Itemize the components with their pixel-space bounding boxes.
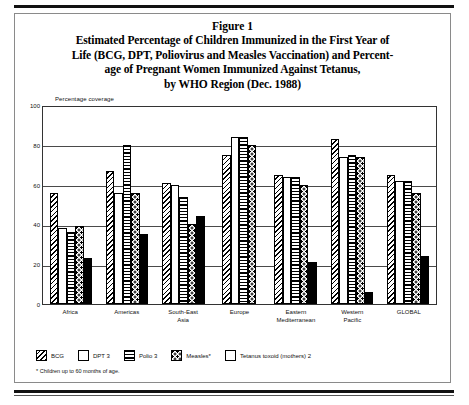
y-axis-tick-label: 40 (18, 222, 40, 228)
chart-legend: BCGDPT 3Polio 3Measles*Tetanus toxoid (m… (36, 350, 325, 361)
figure-caption: Figure 1 Estimated Percentage of Childre… (15, 14, 450, 91)
bar (421, 256, 430, 304)
legend-item: BCG (36, 350, 64, 361)
bar (162, 183, 171, 304)
bar-group (268, 107, 324, 304)
legend-swatch-icon (78, 350, 89, 361)
bar (387, 175, 396, 304)
x-axis-label: Eastern Mediterranean (268, 308, 324, 324)
bottom-decorative-rule (14, 390, 454, 393)
legend-item: Measles* (171, 350, 211, 361)
legend-swatch-icon (225, 350, 236, 361)
bar (67, 232, 76, 304)
legend-label: Polio 3 (139, 353, 157, 359)
x-axis-labels: AfricaAmericasSouth-East AsiaEuropeEaste… (42, 308, 437, 324)
top-decorative-rule (14, 5, 454, 8)
bar (339, 157, 348, 304)
bar (404, 181, 413, 304)
bar (365, 292, 374, 304)
y-axis-title: Percentage coverage (55, 96, 114, 102)
bottom-decorative-rule-thin (14, 395, 454, 396)
legend-label: DPT 3 (93, 353, 110, 359)
bar (231, 137, 240, 304)
figure-footnote: * Children up to 60 months of age. (36, 368, 119, 374)
bar (84, 258, 93, 304)
y-axis-tick-label: 100 (18, 103, 40, 109)
legend-item: DPT 3 (78, 350, 110, 361)
bar (274, 175, 283, 304)
bar-group (380, 107, 436, 304)
bar (196, 216, 205, 304)
bar-group (155, 107, 211, 304)
bar (222, 155, 231, 304)
legend-item: Polio 3 (124, 350, 157, 361)
bar (291, 177, 300, 304)
caption-line-2: Life (BCG, DPT, Poliovirus and Measles V… (15, 48, 450, 63)
bar (331, 139, 340, 304)
legend-label: BCG (51, 353, 64, 359)
x-axis-label: Western Pacific (324, 308, 380, 324)
legend-item: Tetanus toxoid (mothers) 2 (225, 350, 311, 361)
bar (50, 193, 59, 304)
bar (123, 145, 132, 304)
chart-plot-area (42, 106, 437, 305)
bar-group (211, 107, 267, 304)
caption-line-3: age of Pregnant Women Immunized Against … (15, 62, 450, 77)
caption-line-4: by WHO Region (Dec. 1988) (15, 77, 450, 92)
bar (248, 145, 257, 304)
bar (114, 193, 123, 304)
bar (188, 224, 197, 304)
legend-swatch-icon (124, 350, 135, 361)
bar (171, 185, 180, 304)
bar-group (324, 107, 380, 304)
bar (308, 262, 317, 304)
x-axis-label: GLOBAL (381, 308, 437, 324)
x-axis-label: South-East Asia (155, 308, 211, 324)
legend-swatch-icon (171, 350, 182, 361)
bar (356, 157, 365, 304)
bar (58, 228, 67, 304)
x-axis-label: Europe (211, 308, 267, 324)
bar (239, 137, 248, 304)
bar (348, 155, 357, 304)
caption-line-1: Estimated Percentage of Children Immuniz… (15, 33, 450, 48)
legend-label: Tetanus toxoid (mothers) 2 (240, 353, 311, 359)
bar (140, 234, 149, 304)
bar (106, 171, 115, 304)
x-axis-label: Africa (42, 308, 98, 324)
y-axis-tick-label: 20 (18, 262, 40, 268)
bar (395, 181, 404, 304)
bar-group (99, 107, 155, 304)
y-axis-tick-label: 0 (18, 302, 40, 308)
figure-number: Figure 1 (15, 19, 450, 33)
legend-label: Measles* (186, 353, 211, 359)
bar-groups (43, 107, 436, 304)
bar (300, 185, 309, 304)
legend-swatch-icon (36, 350, 47, 361)
y-axis-tick-label: 60 (18, 183, 40, 189)
bar (75, 226, 84, 304)
bar (283, 177, 292, 304)
x-axis-label: Americas (98, 308, 154, 324)
bar-group (43, 107, 99, 304)
bar (131, 193, 140, 304)
bar (179, 197, 188, 304)
y-axis-tick-label: 80 (18, 143, 40, 149)
bar (412, 193, 421, 304)
